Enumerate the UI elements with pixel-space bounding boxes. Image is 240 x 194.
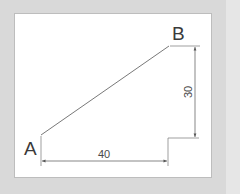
- vertical-dimension-label: 30: [182, 86, 194, 98]
- horizontal-dimension-label: 40: [98, 148, 110, 160]
- line-a-to-b: [41, 46, 169, 135]
- diagram-canvas: A B 40 30: [0, 0, 240, 194]
- point-label-a: A: [24, 138, 37, 159]
- point-label-b: B: [172, 23, 185, 44]
